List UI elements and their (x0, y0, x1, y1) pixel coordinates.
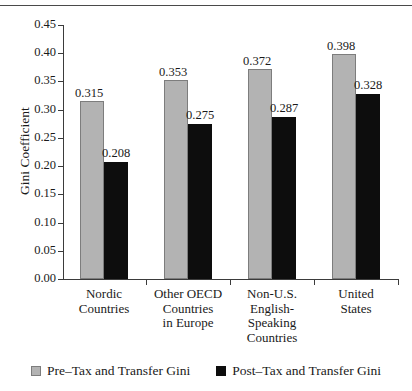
x-category-label-nordic-line-1: Nordic (60, 287, 148, 302)
x-category-label-other-oecd-line-1: Other OECD (144, 287, 232, 302)
bar-value-pre-united-states: 0.398 (327, 39, 355, 54)
y-tick-0.15 (58, 194, 63, 195)
x-tick-boundary-3 (314, 279, 315, 285)
bar-value-pre-non-us-english: 0.372 (243, 54, 271, 69)
bar-pre-united-states (332, 54, 356, 279)
bar-value-pre-other-oecd: 0.353 (159, 65, 187, 80)
x-category-label-non-us-english-line-2: English- (228, 302, 316, 317)
y-tick-label-0.15: 0.15 (16, 187, 56, 199)
top-divider-rule (0, 5, 412, 6)
bar-post-other-oecd (188, 124, 212, 279)
x-category-label-other-oecd-line-2: Countries (144, 302, 232, 317)
y-tick-label-0.00: 0.00 (16, 272, 56, 284)
gini-bar-chart-figure: Gini Coefficient 0.45 0.40 0.35 0.30 0.2… (0, 0, 412, 391)
bar-value-post-united-states: 0.328 (354, 78, 382, 93)
y-tick-0.05 (58, 251, 63, 252)
y-tick-label-0.30: 0.30 (16, 103, 56, 115)
y-tick-label-0.05: 0.05 (16, 244, 56, 256)
x-category-label-non-us-english: Non-U.S. English- Speaking Countries (228, 287, 316, 345)
x-category-label-nordic: Nordic Countries (60, 287, 148, 316)
x-category-label-united-states-line-1: United (312, 287, 400, 302)
y-tick-label-0.35: 0.35 (16, 74, 56, 86)
x-axis-line (63, 279, 399, 280)
y-tick-0.10 (58, 223, 63, 224)
y-axis-title: Gini Coefficient (17, 107, 33, 195)
x-category-label-other-oecd-line-3: in Europe (144, 316, 232, 331)
y-tick-label-0.10: 0.10 (16, 216, 56, 228)
y-tick-0.40 (58, 53, 63, 54)
y-tick-0.20 (58, 166, 63, 167)
y-tick-0.30 (58, 110, 63, 111)
x-category-label-nordic-line-2: Countries (60, 302, 148, 317)
y-tick-label-0.20: 0.20 (16, 159, 56, 171)
bar-value-post-other-oecd: 0.275 (186, 108, 214, 123)
y-tick-label-0.25: 0.25 (16, 131, 56, 143)
y-tick-0.45 (58, 25, 63, 26)
y-axis-line (63, 25, 64, 279)
legend-swatch-pre-tax-icon (31, 366, 41, 376)
bar-pre-non-us-english (248, 69, 272, 279)
x-tick-boundary-1 (146, 279, 147, 285)
y-tick-0.35 (58, 81, 63, 82)
legend-label-pre-tax: Pre–Tax and Transfer Gini (47, 363, 190, 379)
x-category-label-united-states: United States (312, 287, 400, 316)
legend-label-post-tax: Post–Tax and Transfer Gini (232, 363, 381, 379)
x-category-label-non-us-english-line-4: Countries (228, 331, 316, 346)
x-category-label-non-us-english-line-3: Speaking (228, 316, 316, 331)
x-tick-boundary-2 (230, 279, 231, 285)
legend-item-pre-tax: Pre–Tax and Transfer Gini (31, 363, 190, 379)
y-tick-0.25 (58, 138, 63, 139)
chart-legend: Pre–Tax and Transfer Gini Post–Tax and T… (0, 363, 412, 379)
y-tick-label-0.45: 0.45 (16, 18, 56, 30)
bar-post-non-us-english (272, 117, 296, 279)
bar-pre-nordic (80, 101, 104, 279)
x-category-label-non-us-english-line-1: Non-U.S. (228, 287, 316, 302)
y-tick-label-0.40: 0.40 (16, 46, 56, 58)
x-category-label-other-oecd: Other OECD Countries in Europe (144, 287, 232, 331)
bar-value-post-nordic: 0.208 (102, 146, 130, 161)
legend-swatch-post-tax-icon (216, 366, 226, 376)
bar-value-pre-nordic: 0.315 (75, 86, 103, 101)
bar-post-united-states (356, 94, 380, 279)
plot-area: Gini Coefficient 0.45 0.40 0.35 0.30 0.2… (63, 25, 398, 279)
bar-post-nordic (104, 162, 128, 279)
bar-value-post-non-us-english: 0.287 (270, 101, 298, 116)
bar-pre-other-oecd (164, 80, 188, 279)
x-tick-boundary-4 (398, 279, 399, 285)
x-category-label-united-states-line-2: States (312, 302, 400, 317)
y-tick-0.00 (58, 279, 63, 280)
legend-item-post-tax: Post–Tax and Transfer Gini (216, 363, 381, 379)
